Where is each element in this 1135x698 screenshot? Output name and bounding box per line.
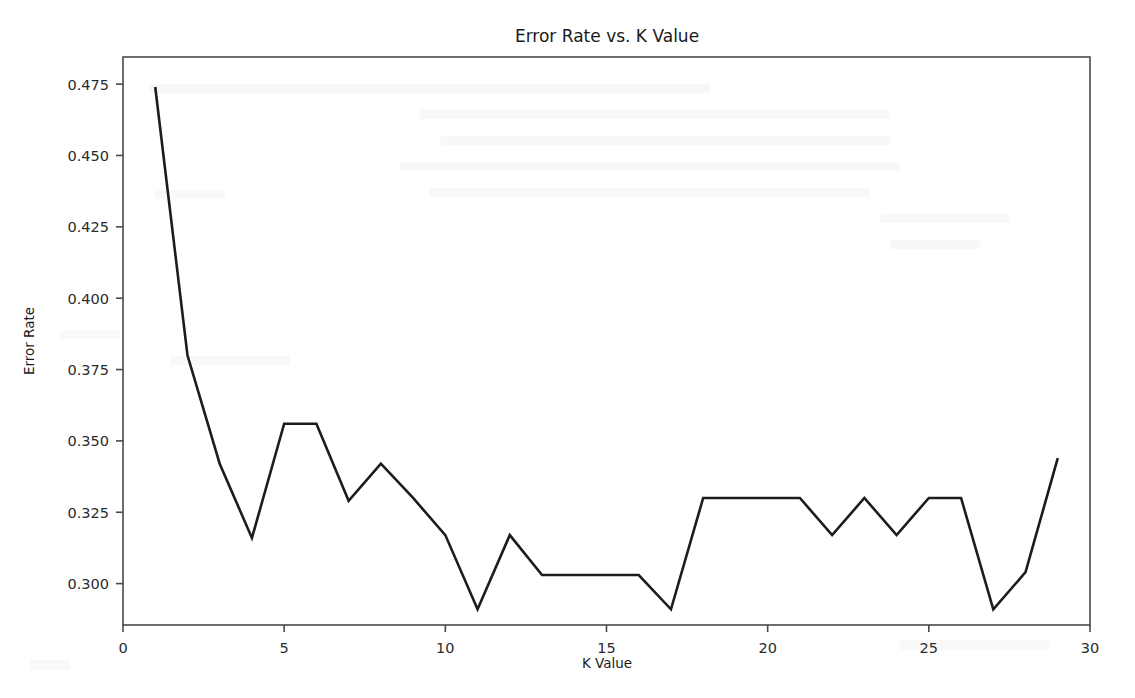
x-tick-label: 10 [436, 640, 454, 656]
chart-title: Error Rate vs. K Value [515, 26, 699, 46]
y-tick-label: 0.350 [67, 433, 109, 449]
x-axis-ticks: 051015202530 [118, 625, 1099, 656]
error-rate-line [155, 87, 1058, 609]
x-tick-label: 20 [758, 640, 776, 656]
y-tick-label: 0.325 [67, 505, 109, 521]
x-tick-label: 15 [597, 640, 615, 656]
x-axis-label: K Value [582, 655, 632, 671]
figure-canvas: Error Rate vs. K Value 0.3000.3250.3500.… [0, 0, 1135, 698]
y-tick-label: 0.300 [67, 576, 109, 592]
x-tick-label: 5 [280, 640, 289, 656]
chart-svg: Error Rate vs. K Value 0.3000.3250.3500.… [0, 0, 1135, 698]
y-tick-label: 0.475 [67, 77, 109, 93]
y-tick-label: 0.425 [67, 219, 109, 235]
x-tick-label: 30 [1081, 640, 1099, 656]
y-tick-label: 0.375 [67, 362, 109, 378]
plot-frame [123, 57, 1090, 625]
y-tick-label: 0.400 [67, 291, 109, 307]
y-axis-label: Error Rate [21, 307, 37, 375]
y-axis-ticks: 0.3000.3250.3500.3750.4000.4250.4500.475 [67, 77, 123, 592]
y-tick-label: 0.450 [67, 148, 109, 164]
x-tick-label: 0 [118, 640, 127, 656]
x-tick-label: 25 [920, 640, 938, 656]
